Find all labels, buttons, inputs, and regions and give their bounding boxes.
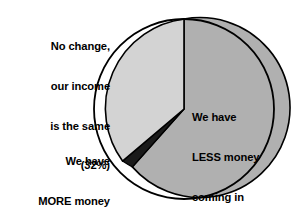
pie-label-less-money-line-3: coming in (192, 191, 278, 204)
pie-label-more-money: We have MORE money coming in (2%) (14, 129, 110, 218)
pie-label-no-change-line-2: our income (18, 80, 110, 93)
pie-chart-figure: No change, our income is the same (32%) … (0, 0, 291, 218)
pie-label-less-money: We have LESS money coming in (66%) (192, 85, 278, 218)
pie-label-less-money-line-2: LESS money (192, 151, 278, 164)
pie-label-more-money-line-2: MORE money (14, 195, 110, 208)
pie-label-less-money-line-1: We have (192, 111, 278, 124)
pie-label-more-money-line-1: We have (14, 155, 110, 168)
pie-label-no-change-line-1: No change, (18, 40, 110, 53)
